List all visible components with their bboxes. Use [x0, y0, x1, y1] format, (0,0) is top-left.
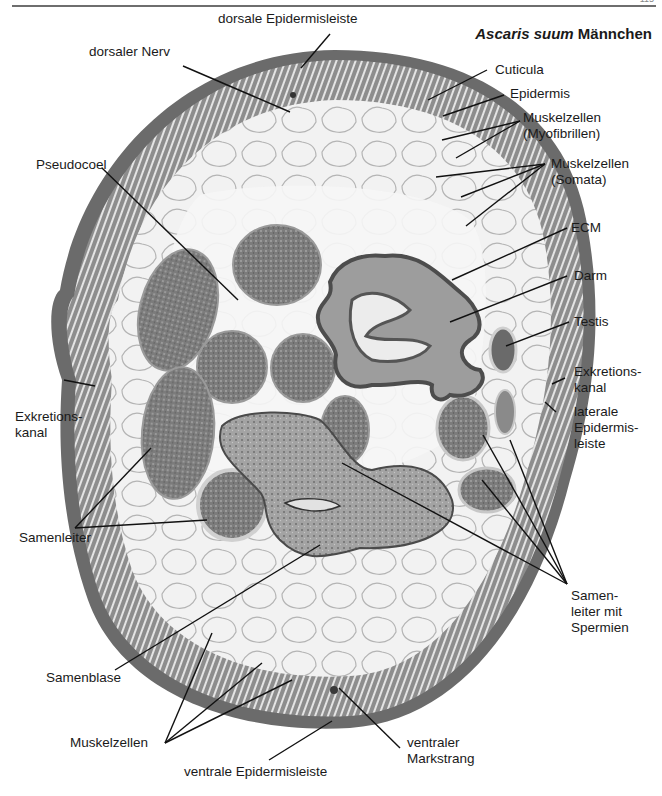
label-line: Spermien: [571, 620, 629, 636]
samenleiter-section: [233, 225, 321, 305]
label-line: ventraler: [407, 735, 475, 751]
label-line: leiste: [574, 436, 639, 452]
label-cuticula: Cuticula: [495, 62, 544, 78]
testis-section: [490, 328, 516, 372]
label-line: Exkretions-: [574, 364, 642, 380]
label-exkretionskanal-left: Exkretions- kanal: [15, 409, 83, 441]
label-line: (Myofibrillen): [523, 126, 601, 142]
samenleiter-section: [459, 468, 515, 512]
label-line: Samen-: [571, 588, 629, 604]
label-line: kanal: [15, 425, 83, 441]
label-ecm: ECM: [571, 220, 601, 236]
label-line: leiter mit: [571, 604, 629, 620]
ventraler-markstrang-marker: [330, 686, 338, 694]
label-line: laterale: [574, 404, 639, 420]
label-testis: Testis: [574, 314, 609, 330]
label-ventraler-markstrang: ventraler Markstrang: [407, 735, 475, 767]
label-line: Exkretions-: [15, 409, 83, 425]
label-line: kanal: [574, 380, 642, 396]
label-line: Markstrang: [407, 751, 475, 767]
samenleiter-section: [495, 390, 515, 434]
label-samenblase: Samenblase: [46, 670, 121, 686]
label-pseudocoel: Pseudocoel: [36, 157, 107, 173]
samenleiter-section: [271, 334, 335, 402]
label-ventrale-epidermisleiste: ventrale Epidermisleiste: [184, 764, 327, 780]
label-samenleiter: Samenleiter: [19, 530, 91, 546]
samenleiter-section: [437, 396, 489, 460]
label-line: (Somata): [551, 172, 629, 188]
label-muskelzellen-somata: Muskelzellen (Somata): [551, 156, 629, 188]
label-dorsale-epidermisleiste: dorsale Epidermisleiste: [218, 11, 358, 27]
label-samenleiter-mit-spermien: Samen- leiter mit Spermien: [571, 588, 629, 636]
label-exkretionskanal-right: Exkretions- kanal: [574, 364, 642, 396]
label-line: Muskelzellen: [523, 110, 601, 126]
label-epidermis: Epidermis: [510, 86, 570, 102]
label-darm: Darm: [574, 268, 607, 284]
label-dorsaler-nerv: dorsaler Nerv: [89, 44, 170, 60]
label-laterale-epidermisleiste: laterale Epidermis- leiste: [574, 404, 639, 452]
dorsaler-nerv-marker: [290, 92, 296, 98]
label-muskelzellen-myofibrillen: Muskelzellen (Myofibrillen): [523, 110, 601, 142]
label-line: Muskelzellen: [551, 156, 629, 172]
label-muskelzellen: Muskelzellen: [70, 735, 148, 751]
label-line: Epidermis-: [574, 420, 639, 436]
